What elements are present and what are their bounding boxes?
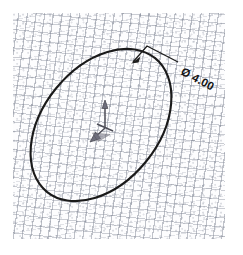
dimension-leader[interactable]	[131, 46, 178, 64]
drawing-layer: Ø 4.00	[0, 0, 243, 255]
leader-arrowhead-icon	[131, 57, 141, 64]
cad-sketch-canvas: Ø 4.00	[0, 0, 243, 255]
dimension-label-group[interactable]: Ø 4.00	[179, 65, 216, 92]
diameter-dimension-label[interactable]: Ø 4.00	[179, 65, 216, 92]
axis-y-arrow-icon	[102, 100, 108, 109]
origin-triad[interactable]	[90, 100, 113, 142]
